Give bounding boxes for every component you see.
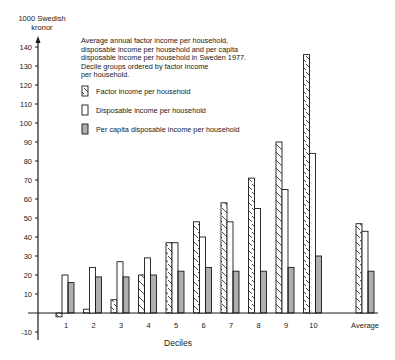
per-capita-income-bar — [178, 271, 184, 313]
factor-income-bar — [166, 243, 172, 313]
disposable-income-bar — [172, 243, 178, 313]
disposable-income-bar — [200, 237, 206, 313]
bar-group-5 — [166, 243, 184, 313]
per-capita-income-bar — [233, 271, 239, 313]
bar-group-2 — [84, 267, 102, 313]
y-tick-label: 50 — [24, 214, 32, 223]
y-tick-label: 70 — [24, 176, 32, 185]
category-label: 6 — [201, 321, 205, 330]
y-axis: -10102030405060708090100110120130140 — [19, 36, 40, 340]
category-label: 10 — [309, 321, 317, 330]
horizontal-lines-swatch-icon — [82, 124, 88, 134]
x-axis-tick-labels: 12345678910Average — [64, 321, 379, 330]
per-capita-income-bar — [316, 256, 322, 313]
per-capita-income-bar — [123, 277, 129, 313]
bar-group-4 — [139, 258, 157, 313]
disposable-income-bar — [362, 231, 368, 313]
per-capita-income-bar — [151, 275, 157, 313]
bar-group-average — [356, 224, 374, 313]
y-tick-label: 20 — [24, 271, 32, 280]
per-capita-income-bar — [96, 277, 102, 313]
y-tick-label: 90 — [24, 138, 32, 147]
y-tick-label: 80 — [24, 157, 32, 166]
bar-group-6 — [194, 222, 212, 313]
category-label: 9 — [284, 321, 288, 330]
y-tick-label: 100 — [19, 119, 32, 128]
disposable-income-bar — [90, 267, 96, 313]
category-label: 5 — [174, 321, 178, 330]
factor-income-bar — [304, 55, 310, 313]
y-axis-arrow-icon — [36, 36, 41, 43]
category-label: 3 — [119, 321, 123, 330]
disposable-income-bar — [145, 258, 151, 313]
disposable-income-bar — [117, 262, 123, 313]
category-label: 4 — [146, 321, 150, 330]
factor-income-bar — [84, 309, 90, 313]
y-tick-label: 10 — [24, 290, 32, 299]
svg-text:Disposable income per househol: Disposable income per household — [96, 106, 206, 115]
factor-income-bar — [221, 203, 227, 313]
chart-title: Average annual factor income per househo… — [81, 36, 246, 79]
per-capita-income-bar — [288, 267, 294, 313]
bar-group-1 — [56, 275, 74, 317]
y-tick-label: 40 — [24, 233, 32, 242]
y-tick-label: -10 — [21, 328, 32, 337]
category-label: Average — [351, 321, 379, 330]
factor-income-bar — [276, 142, 282, 313]
per-capita-income-bar — [206, 267, 212, 313]
bar-group-10 — [304, 55, 322, 313]
blank-swatch-icon — [82, 105, 88, 115]
category-label: 1 — [64, 321, 68, 330]
bar-chart: 1000 Swedish kronor -1010203040506070809… — [0, 0, 395, 360]
y-tick-label: 30 — [24, 252, 32, 261]
svg-text:Per capita disposable income p: Per capita disposable income per househo… — [96, 125, 240, 134]
per-capita-income-bar — [261, 271, 267, 313]
factor-income-bar — [56, 313, 62, 317]
bar-group-8 — [249, 178, 267, 313]
category-label: 8 — [256, 321, 260, 330]
factor-income-bar — [139, 275, 145, 313]
bar-group-9 — [276, 142, 294, 313]
bar-group-3 — [111, 262, 129, 313]
y-tick-label: 140 — [19, 43, 32, 52]
svg-text:Factor income per household: Factor income per household — [96, 87, 191, 96]
y-tick-label: 60 — [24, 195, 32, 204]
y-axis-label-line-2: kronor — [31, 23, 53, 32]
disposable-income-bar — [227, 222, 233, 313]
factor-income-bar — [194, 222, 200, 313]
bar-group-7 — [221, 203, 239, 313]
disposable-income-bar — [282, 190, 288, 314]
legend: Factor income per household Disposable i… — [82, 86, 240, 134]
svg-text:per household.: per household. — [81, 70, 129, 79]
legend-item-factor-income: Factor income per household — [82, 86, 191, 96]
per-capita-income-bar — [368, 271, 374, 313]
category-label: 7 — [229, 321, 233, 330]
diagonal-hatch-swatch-icon — [82, 86, 88, 96]
disposable-income-bar — [62, 275, 68, 313]
y-tick-label: 110 — [20, 100, 32, 109]
x-axis-label: Deciles — [164, 338, 192, 348]
disposable-income-bar — [310, 153, 316, 313]
factor-income-bar — [249, 178, 255, 313]
factor-income-bar — [111, 300, 117, 313]
legend-item-per-capita-income: Per capita disposable income per househo… — [82, 124, 240, 134]
category-label: 2 — [91, 321, 95, 330]
legend-item-disposable-income: Disposable income per household — [82, 105, 206, 115]
per-capita-income-bar — [68, 283, 74, 313]
y-axis-label-line-1: 1000 Swedish — [18, 14, 65, 23]
factor-income-bar — [356, 224, 362, 313]
y-tick-label: 130 — [19, 62, 32, 71]
disposable-income-bar — [255, 209, 261, 314]
y-tick-label: 120 — [19, 81, 32, 90]
